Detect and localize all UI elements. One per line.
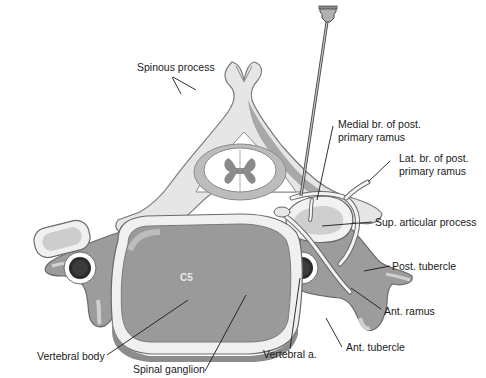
needle <box>301 6 337 196</box>
label-vertebral-body: Vertebral body <box>37 350 105 362</box>
anatomy-illustration <box>0 0 486 378</box>
label-ant-ramus: Ant. ramus <box>384 305 435 317</box>
label-vertebral-artery: Vertebral a. <box>263 348 317 360</box>
label-lateral-branch-line2: primary ramus <box>399 165 466 177</box>
label-ant-tubercle: Ant. tubercle <box>346 341 405 353</box>
vertebra-level-label: C5 <box>180 272 193 283</box>
label-lateral-branch-line1: Lat. br. of post. <box>399 152 468 164</box>
label-medial-branch-line2: primary ramus <box>338 131 405 143</box>
label-medial-branch-line1: Medial br. of post. <box>338 118 421 130</box>
label-sup-articular-process: Sup. articular process <box>375 216 477 228</box>
vertebral-body <box>111 214 302 362</box>
label-post-tubercle: Post. tubercle <box>392 260 456 272</box>
label-spinal-ganglion: Spinal ganglion <box>133 363 205 375</box>
spinal-canal <box>194 144 286 200</box>
vertebra-diagram: C5 Spinous process Medial br. of post. p… <box>0 0 486 378</box>
label-spinous-process: Spinous process <box>137 61 215 73</box>
